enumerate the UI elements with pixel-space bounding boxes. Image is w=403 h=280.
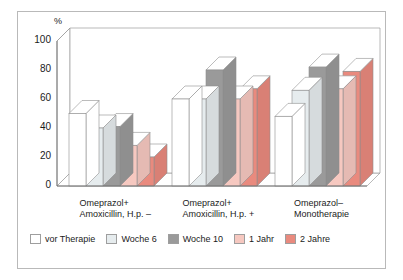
legend-swatch-icon: [106, 234, 117, 244]
category-label-line: Omeprazol–: [294, 198, 349, 209]
x-axis-category-label: Omeprazol+Amoxicillin, H.p. –: [80, 198, 152, 220]
legend-label: vor Therapie: [45, 234, 95, 244]
chart-figure: % 100806040200 Omeprazol+Amoxicillin, H.…: [0, 0, 403, 280]
legend-item-5[interactable]: 2 Jahre: [285, 234, 330, 244]
x-axis-category-label: Omeprazol–Monotherapie: [294, 198, 349, 220]
legend-swatch-icon: [285, 234, 296, 244]
legend-item-3[interactable]: Woche 10: [168, 234, 223, 244]
legend-item-4[interactable]: 1 Jahr: [234, 234, 274, 244]
x-axis-category-label: Omeprazol+Amoxicillin, H.p. +: [183, 198, 255, 220]
legend-label: Woche 10: [183, 234, 223, 244]
bar-3-1: [275, 103, 305, 186]
bar-1-1: [69, 101, 99, 187]
category-label-line: Omeprazol+: [183, 198, 255, 209]
legend-label: Woche 6: [121, 234, 156, 244]
plot-area: [17, 11, 386, 211]
legend-swatch-icon: [30, 234, 41, 244]
category-label-line: Amoxicillin, H.p. +: [183, 209, 255, 220]
chart-legend: vor TherapieWoche 6Woche 101 Jahr2 Jahre: [30, 234, 375, 244]
legend-item-1[interactable]: vor Therapie: [30, 234, 95, 244]
category-label-line: Omeprazol+: [80, 198, 152, 209]
legend-swatch-icon: [234, 234, 245, 244]
legend-item-2[interactable]: Woche 6: [106, 234, 156, 244]
category-label-line: Amoxicillin, H.p. –: [80, 209, 152, 220]
bar-2-1: [172, 86, 202, 186]
legend-swatch-icon: [168, 234, 179, 244]
category-label-line: Monotherapie: [294, 209, 349, 220]
legend-label: 2 Jahre: [300, 234, 330, 244]
legend-label: 1 Jahr: [249, 234, 274, 244]
